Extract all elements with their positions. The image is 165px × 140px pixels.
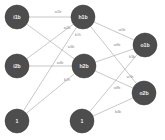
node-h2b[interactable]: h2b: [72, 54, 96, 78]
edge-b2-to-o1b: [90, 54, 138, 112]
node-label-i2b: i2b: [13, 63, 21, 69]
node-label-b1: 1: [16, 118, 19, 124]
node-label-b2: 1: [81, 118, 84, 124]
edge-label-b4b: b4b: [115, 110, 121, 114]
nodes-layer: i1bh1bo1bi2bh2bo2b11: [5, 5, 157, 133]
node-label-i1b: i1b: [13, 14, 21, 20]
node-o2b[interactable]: o2b: [132, 81, 156, 105]
node-i2b[interactable]: i2b: [5, 54, 29, 78]
node-h1b[interactable]: h1b: [71, 5, 95, 29]
node-b2[interactable]: 1: [70, 109, 94, 133]
edge-label-w6b: w6b: [114, 43, 121, 47]
node-o1b[interactable]: o1b: [133, 33, 157, 57]
edge-h1b-to-o1b: [94, 22, 134, 40]
edge-label-w5b: w5b: [119, 28, 126, 32]
edge-label-w4b: w4b: [57, 61, 64, 65]
edge-b1-to-h1b: [23, 27, 76, 111]
edge-h2b-to-o1b: [95, 49, 133, 62]
node-i1b[interactable]: i1b: [5, 5, 29, 29]
diagram-canvas: w1bw3bw2bw4bb1hb2hw5bw7bw6bw8bb3bb4b i1b…: [0, 0, 165, 140]
edge-label-w8b: w8b: [114, 86, 121, 90]
edge-label-b3b: b3b: [129, 55, 135, 59]
node-label-h1b: h1b: [78, 14, 87, 20]
node-label-o2b: o2b: [139, 90, 148, 96]
edge-label-w2b: w2b: [64, 26, 71, 30]
node-label-o1b: o1b: [140, 42, 149, 48]
neural-network-graph: w1bw3bw2bw4bb1hb2hw5bw7bw6bw8bb3bb4b i1b…: [0, 0, 165, 140]
edge-label-w3b: w3b: [68, 45, 75, 49]
edge-label-b2h: b2h: [64, 78, 70, 82]
node-label-h2b: h2b: [79, 63, 88, 69]
node-b1[interactable]: 1: [5, 109, 29, 133]
edge-label-w7b: w7b: [127, 75, 134, 79]
edge-label-w1b: w1b: [55, 10, 62, 14]
edge-label-b1h: b1h: [75, 33, 81, 37]
